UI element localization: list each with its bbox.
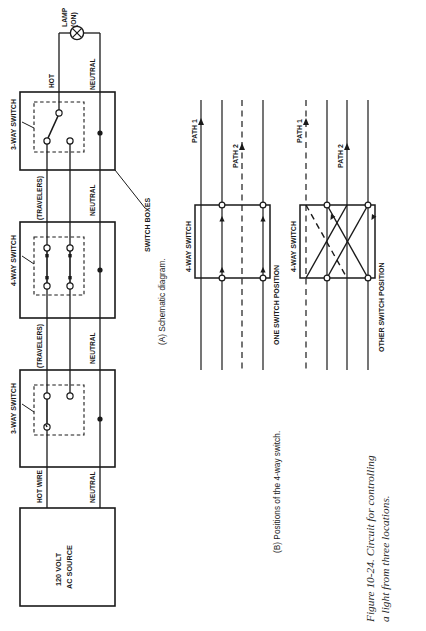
label-path2-pos-other: PATH 2 (337, 144, 344, 168)
flow-arrows-pos-one (219, 216, 265, 272)
terminal-4way-upper-right (67, 245, 73, 251)
switch-blade-upper (48, 116, 58, 138)
flow-arrows-pos-other (330, 214, 376, 220)
terminal-4way-lower-right (67, 283, 73, 289)
terminal-traveler-b-upper (67, 138, 73, 144)
label-lamp-line2: (ON) (70, 12, 78, 27)
junction-dot-neutral-4way (97, 267, 102, 272)
terminal-common-upper (56, 110, 62, 116)
lamp-icon (70, 26, 83, 39)
leader-3way-upper (22, 122, 34, 128)
panel-b-positions: PATH 1 PATH 2 4-WAY SWITCH ONE SWITCH PO… (185, 100, 385, 553)
arrow-path1-pos-one (198, 118, 204, 125)
label-neutral-top: NEUTRAL (89, 184, 96, 216)
ac-source-box: 120 VOLT AC SOURCE (20, 508, 115, 606)
label-neutral-source: NEUTRAL (89, 471, 96, 503)
terminal-pos-other-bot-d (365, 275, 371, 281)
terminal-traveler-b-lower (67, 393, 73, 399)
figure-page: 120 VOLT AC SOURCE HOT WIRE NEUTRAL (0, 0, 426, 631)
figure-caption-line2: a light from three locations. (379, 495, 391, 622)
contact-4way-right-upper (68, 254, 71, 257)
label-switch-boxes: SWITCH BOXES (144, 198, 151, 252)
figure-caption: Figure 10-24. Circuit for controlling a … (364, 455, 391, 623)
ac-source-label-line1: 120 VOLT (54, 552, 63, 586)
junction-dot-neutral-upper (97, 130, 102, 135)
four-way-position-one: PATH 1 PATH 2 4-WAY SWITCH ONE SWITCH PO… (185, 100, 280, 370)
label-neutral-lamp: NEUTRAL (89, 58, 96, 90)
panel-a-caption: (A) Schematic diagram. (157, 258, 167, 345)
label-lamp-line1: LAMP (61, 7, 68, 27)
terminal-traveler-a-lower (44, 393, 50, 399)
label-hot-wire: HOT WIRE (36, 469, 43, 503)
leader-3way-lower (22, 404, 34, 412)
switch-body-pos-one (195, 205, 270, 278)
contact-4way-left-lower (45, 276, 48, 279)
label-position-other: OTHER SWITCH POSITION (378, 263, 385, 352)
contact-4way-right-lower (68, 276, 71, 279)
label-switch-pos-other: 4-WAY SWITCH (290, 221, 297, 272)
label-path1-pos-one: PATH 1 (191, 119, 198, 143)
label-travelers-lower: (TRAVELERS) (36, 324, 44, 368)
terminal-pos-one-top-d (260, 202, 266, 208)
terminal-pos-other-bot-b (324, 275, 330, 281)
label-hot: HOT (48, 74, 55, 88)
figure-caption-line1: Figure 10-24. Circuit for controlling (364, 455, 376, 623)
terminal-pos-other-top-d (365, 202, 371, 208)
switch-pivot-lower (46, 425, 47, 427)
terminal-traveler-a-upper (44, 138, 50, 144)
panel-b-caption: (B) Positions of the 4-way switch. (272, 431, 282, 553)
leader-4way (22, 256, 34, 264)
terminal-4way-upper-left (44, 245, 50, 251)
terminal-pos-one-bot-d (260, 275, 266, 281)
four-way-position-other: PATH 1 PATH 2 4-WAY SWITCH OTHER SWITCH … (290, 100, 385, 370)
ac-source-label-line2: AC SOURCE (65, 545, 74, 589)
arrow-path1-pos-other (303, 118, 309, 125)
arrow-path2-pos-other (344, 143, 350, 150)
terminal-pos-other-top-b (324, 202, 330, 208)
label-path1-pos-other: PATH 1 (296, 119, 303, 143)
contact-4way-left-upper (45, 254, 48, 257)
label-3way-switch-upper: 3-WAY SWITCH (10, 99, 17, 150)
circuit-diagram-figure: 120 VOLT AC SOURCE HOT WIRE NEUTRAL (0, 0, 426, 631)
panel-a-schematic: 120 VOLT AC SOURCE HOT WIRE NEUTRAL (10, 7, 167, 606)
switch-dashed-outline-lower (34, 385, 84, 435)
label-4way-switch: 4-WAY SWITCH (10, 235, 17, 286)
label-position-one: ONE SWITCH POSITION (273, 265, 280, 345)
leader-switch-boxes (115, 170, 145, 208)
junction-dot-neutral-lower (97, 416, 102, 421)
arrow-path2-pos-one (239, 143, 245, 150)
switch-box-4way: 4-WAY SWITCH (10, 222, 115, 318)
switch-box-lower-3way: 3-WAY SWITCH (10, 370, 115, 467)
terminal-pos-one-top-b (219, 202, 225, 208)
switch-body-pos-other (300, 205, 375, 278)
switch-dashed-outline-4way (34, 237, 84, 295)
switch-box-upper-3way: 3-WAY SWITCH (10, 92, 115, 170)
label-neutral-mid: NEUTRAL (89, 332, 96, 364)
terminal-4way-lower-left (44, 283, 50, 289)
terminal-pos-one-bot-b (219, 275, 225, 281)
label-travelers-upper: (TRAVELERS) (36, 176, 44, 220)
label-switch-pos-one: 4-WAY SWITCH (185, 221, 192, 272)
label-path2-pos-one: PATH 2 (232, 144, 239, 168)
label-3way-switch-lower: 3-WAY SWITCH (10, 383, 17, 434)
